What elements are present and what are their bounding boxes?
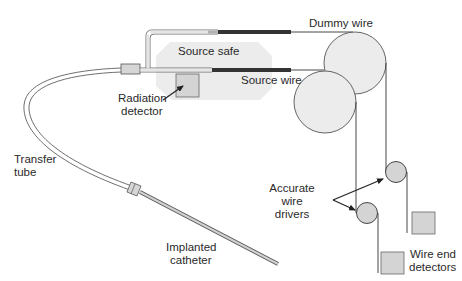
label-source-safe: Source safe xyxy=(178,45,239,57)
label-accurate-wire-drivers-3: drivers xyxy=(275,208,310,220)
driver-arrow-lower xyxy=(333,200,355,210)
label-source-wire: Source wire xyxy=(241,74,302,86)
radiation-detector xyxy=(176,74,199,97)
label-transfer-tube-2: tube xyxy=(14,166,36,178)
source-wire xyxy=(212,68,324,72)
label-wire-end-detectors-1: Wire end xyxy=(410,248,456,260)
catheter-connector xyxy=(127,182,141,196)
wire-end-detector-lower xyxy=(381,252,404,274)
label-transfer-tube-1: Transfer xyxy=(14,153,57,165)
label-implanted-catheter-1: Implanted xyxy=(166,241,217,253)
label-radiation-detector-1: Radiation xyxy=(118,92,167,104)
label-accurate-wire-drivers-2: wire xyxy=(280,195,302,207)
driver-arrow-upper xyxy=(333,179,383,200)
label-dummy-wire: Dummy wire xyxy=(309,17,373,29)
wire-driver-lower xyxy=(357,203,378,224)
wire-driver-upper xyxy=(386,162,407,183)
transfer-tube xyxy=(24,68,132,190)
afterloader-diagram: Dummy wire Source safe Source wire Radia… xyxy=(0,0,462,281)
connector-box xyxy=(121,64,140,74)
dummy-wire xyxy=(208,30,353,34)
source-wire-drum xyxy=(294,71,356,133)
label-radiation-detector-2: detector xyxy=(121,105,163,117)
label-wire-end-detectors-2: detectors xyxy=(409,261,457,273)
label-implanted-catheter-2: catheter xyxy=(170,254,212,266)
wire-end-detector-upper xyxy=(412,212,435,234)
label-accurate-wire-drivers-1: Accurate xyxy=(269,182,314,194)
